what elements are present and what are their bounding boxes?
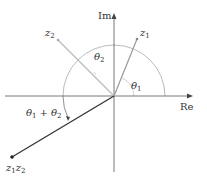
theta1-label: θ1: [131, 80, 142, 93]
product-label: z1z2: [5, 162, 26, 175]
theta2-label: θ2: [94, 51, 105, 64]
z2-point: [57, 39, 60, 42]
sum-angle-arrowhead-icon: [66, 116, 70, 121]
theta2-arc: [94, 72, 96, 75]
product-vector: [12, 96, 114, 157]
z2-vector: [58, 40, 114, 96]
z1-label: z1: [139, 27, 150, 40]
z1-point: [136, 38, 139, 41]
real-axis-arrow-icon: [187, 94, 193, 99]
imag-axis-arrow-icon: [112, 13, 117, 19]
complex-plane-diagram: Im Re z1 z2 z1z2 θ1 θ2 θ1+θ2: [0, 0, 207, 178]
sum-angle-arc: [63, 96, 68, 118]
product-point: [10, 155, 14, 159]
imag-axis-label: Im: [98, 10, 112, 21]
z2-label: z2: [44, 27, 55, 40]
real-axis-label: Re: [180, 101, 194, 112]
theta-sum-label: θ1+θ2: [26, 107, 61, 120]
